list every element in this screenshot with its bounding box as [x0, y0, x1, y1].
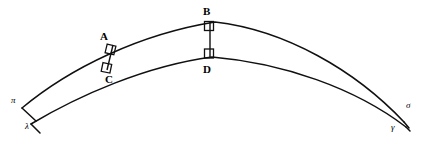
- endpoint-label-pi: π: [11, 96, 16, 105]
- vertex-label-d: D: [203, 64, 211, 75]
- arc-diagram-figure: A B C D π λ σ γ: [0, 0, 428, 144]
- outer-arc: [22, 22, 404, 122]
- outer-arc-left-tail: [22, 108, 36, 121]
- endpoint-label-lambda: λ: [25, 122, 29, 131]
- transversal-segment-ac: [107, 45, 113, 70]
- endpoint-label-gamma: γ: [391, 123, 395, 132]
- vertex-label-a: A: [100, 31, 108, 42]
- vertex-label-b: B: [203, 6, 210, 17]
- diagram-canvas: [0, 0, 428, 144]
- vertex-label-c: C: [105, 74, 113, 85]
- inner-arc-left-tail: [31, 124, 40, 133]
- inner-arc: [31, 57, 406, 127]
- right-angle-marker-c: [101, 63, 112, 74]
- endpoint-label-sigma: σ: [406, 101, 410, 110]
